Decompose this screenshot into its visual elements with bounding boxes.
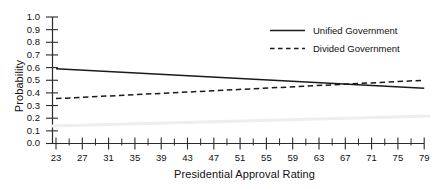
y-axis-title: Probability [13, 36, 25, 136]
y-tick-label: 0.9 [14, 24, 40, 35]
legend-label-unified-government: Unified Government [313, 25, 397, 36]
x-axis-title: Presidential Approval Rating [0, 168, 437, 180]
series-line-unified-government [56, 69, 424, 89]
x-tick-label: 39 [149, 152, 173, 163]
x-tick-label: 27 [70, 152, 94, 163]
x-tick-label: 67 [333, 152, 357, 163]
y-tick-label: 1.0 [14, 11, 40, 22]
x-tick-label: 47 [202, 152, 226, 163]
x-tick-label: 55 [254, 152, 278, 163]
scan-artifact [52, 116, 430, 126]
x-tick-label: 79 [412, 152, 436, 163]
x-tick-label: 71 [360, 152, 384, 163]
x-tick-label: 23 [44, 152, 68, 163]
x-tick-label: 43 [176, 152, 200, 163]
probability-line-chart: 1.0 0.9 0.8 0.7 0.6 0.5 0.4 0.3 0.2 0.1 … [0, 0, 437, 189]
x-tick-label: 63 [307, 152, 331, 163]
legend-label-divided-government: Divided Government [313, 43, 400, 54]
x-tick-label: 31 [97, 152, 121, 163]
x-tick-label: 51 [228, 152, 252, 163]
series-line-divided-government [56, 80, 424, 98]
x-tick-label: 59 [281, 152, 305, 163]
x-tick-label: 75 [386, 152, 410, 163]
x-tick-label: 35 [123, 152, 147, 163]
y-tick-label: 0.0 [14, 137, 40, 148]
